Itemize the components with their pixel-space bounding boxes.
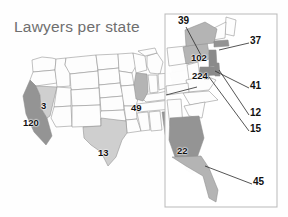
state-oregon — [30, 70, 57, 86]
map-label-illinois: 49 — [131, 103, 142, 113]
state-new-mexico — [72, 105, 101, 127]
map-label-delaware: 12 — [250, 108, 261, 118]
map-label-maryland: 41 — [250, 81, 261, 91]
map-label-dc: 15 — [250, 124, 261, 134]
state-south-dakota — [98, 68, 120, 85]
map-label-new-york: 102 — [191, 53, 207, 63]
map-label-new-jersey: 224 — [192, 71, 208, 81]
figure-root: Lawyers per state 120 3 13 49 39 102 37 … — [0, 0, 288, 217]
inset-state-maine — [225, 17, 236, 36]
state-montana — [65, 55, 98, 74]
map-label-nevada: 3 — [41, 101, 46, 111]
map-label-pennsylvania: 39 — [178, 16, 189, 26]
inset-state-delaware — [214, 63, 220, 76]
state-washington — [32, 57, 56, 72]
state-michigan — [147, 53, 163, 74]
state-iowa — [119, 71, 134, 86]
map-label-florida: 45 — [253, 177, 264, 187]
state-nebraska — [99, 83, 123, 98]
state-utah — [54, 87, 71, 107]
state-wyoming — [70, 71, 99, 90]
state-alabama — [149, 111, 162, 131]
page-title: Lawyers per state — [14, 18, 140, 36]
state-indiana — [148, 75, 158, 93]
map-label-massachusetts: 37 — [250, 36, 261, 46]
state-arizona — [51, 106, 72, 127]
inset-state-massachusetts — [214, 40, 229, 47]
state-north-dakota — [96, 54, 119, 70]
map-label-texas: 13 — [98, 148, 109, 158]
map-label-california: 120 — [23, 118, 39, 128]
state-colorado — [71, 88, 100, 106]
map-label-georgia: 22 — [177, 146, 188, 156]
state-kansas — [100, 96, 124, 111]
